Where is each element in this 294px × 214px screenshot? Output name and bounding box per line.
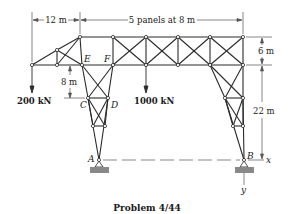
load-arrow-1000: [144, 66, 148, 93]
joint-label-d: D: [110, 100, 118, 110]
truss-diagram: 12 m 5 panels at 8 m 6 m 22 m 8 m 200 kN…: [0, 0, 294, 214]
joint-label-c: C: [80, 100, 87, 110]
axis-label-x: x: [266, 155, 271, 165]
joint-label-a: A: [87, 154, 95, 164]
label-left-load: 200 kN: [17, 96, 52, 106]
label-center-load: 1000 kN: [134, 96, 175, 106]
figure-caption: Problem 4/44: [113, 203, 181, 213]
support-b: [235, 161, 254, 173]
joint-label-b: B: [246, 151, 254, 161]
joint-label-f: F: [103, 54, 111, 64]
label-top-depth: 6 m: [258, 46, 274, 56]
label-cd-offset: 8 m: [61, 77, 77, 87]
label-tower-height: 22 m: [253, 106, 275, 116]
label-panels: 5 panels at 8 m: [129, 15, 195, 25]
axis-label-y: y: [240, 185, 247, 195]
joint-label-e: E: [83, 54, 91, 64]
load-arrow-200: [30, 66, 34, 93]
label-left-span: 12 m: [45, 15, 67, 25]
